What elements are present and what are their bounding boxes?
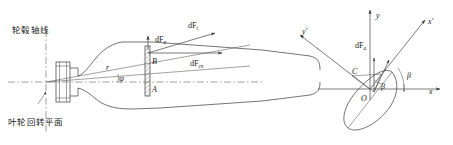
xprime-axis <box>370 20 425 89</box>
svg-text:dFt: dFt <box>188 21 198 31</box>
point-b-label: B <box>152 57 157 66</box>
yprime-axis-label: y' <box>301 27 308 36</box>
origin-label: O <box>361 94 367 103</box>
dfa-sub-left: a <box>163 39 166 45</box>
right-airfoil-section: x y x' y' C O β β dFa <box>262 10 440 130</box>
svg-text:dFa: dFa <box>355 41 366 51</box>
x-axis-label: x <box>428 87 433 96</box>
section-ab-hatch <box>145 46 150 96</box>
svg-text:dFa: dFa <box>155 35 166 45</box>
psi-angle-label: ψ <box>119 74 125 83</box>
xprime-axis-label: x' <box>427 17 434 26</box>
dft-sub: t <box>196 25 198 31</box>
beta-outer-arc <box>398 68 404 89</box>
diagram-svg: 轮毂轴线 叶轮回转平面 r ψ B A dFa dFt dFcn <box>0 0 453 145</box>
dfcn-sub: cn <box>198 63 203 69</box>
svg-text:dFcn: dFcn <box>190 59 204 69</box>
dft-label: dFt <box>188 21 198 31</box>
figure-container: 轮毂轴线 叶轮回转平面 r ψ B A dFa dFt dFcn <box>0 0 453 145</box>
dfa-label-left: dFa <box>155 35 166 45</box>
blade-tip-upper <box>262 50 320 70</box>
y-axis-label: y <box>375 11 380 20</box>
point-c-label: C <box>352 67 358 76</box>
rotation-plane-leader <box>38 92 46 104</box>
blade-tip-lower <box>262 82 320 101</box>
beta-inner-label: β <box>380 82 385 91</box>
hub-axis-label: 轮毂轴线 <box>12 25 49 35</box>
dfa-sub-right: a <box>363 45 366 51</box>
left-blade-planform: 轮毂轴线 叶轮回转平面 r ψ B A dFa dFt dFcn <box>8 21 262 134</box>
beta-outer-label: β <box>406 71 411 80</box>
point-a-label: A <box>151 85 157 94</box>
blade-lower-edge <box>78 88 262 109</box>
dfa-label-right: dFa <box>355 41 366 51</box>
dfcn-label: dFcn <box>190 59 204 69</box>
rotation-plane-label: 叶轮回转平面 <box>8 117 64 127</box>
